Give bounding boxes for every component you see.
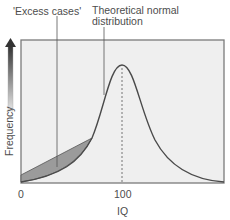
frequency-arrow-head [5, 38, 16, 47]
chart-canvas [0, 0, 230, 220]
y-axis-label: Frequency [3, 106, 15, 156]
excess-cases-label: 'Excess cases' [13, 6, 81, 17]
x-tick-0: 0 [18, 189, 24, 200]
frequency-arrow-shaft [8, 46, 13, 111]
theoretical-label-line2: distribution [92, 16, 143, 27]
x-tick-100: 100 [114, 189, 132, 200]
x-axis-label: IQ [117, 206, 128, 217]
